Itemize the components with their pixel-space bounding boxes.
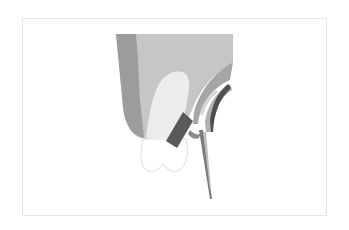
needle	[199, 130, 212, 199]
tooth-crown	[141, 139, 188, 171]
figure-canvas	[0, 0, 349, 230]
dental-illustration	[0, 0, 349, 230]
